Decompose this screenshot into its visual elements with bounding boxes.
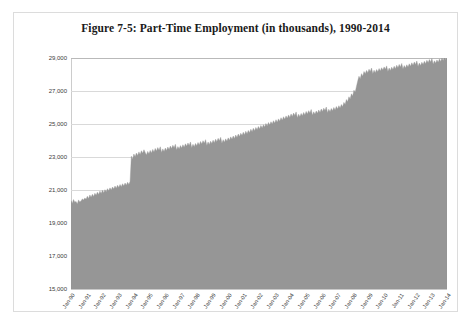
y-axis-tick-label: 15,000: [49, 286, 67, 292]
y-axis-tick-label: 19,000: [49, 220, 67, 226]
x-axis-tick-label: Jan-98: [187, 292, 202, 309]
x-axis-tick-label: Jan-96: [155, 292, 170, 309]
x-axis-tick-label: Jan-99: [202, 292, 217, 309]
x-axis-tick-label: Jan-13: [422, 292, 437, 309]
x-axis-tick-label: Jan-09: [359, 292, 374, 309]
x-axis-tick-label: Jan-11: [390, 292, 404, 309]
x-axis-tick-label: Jan-04: [281, 292, 296, 309]
x-axis-tick-label: Jan-14: [437, 292, 452, 309]
x-axis-tick-label: Jan-08: [343, 292, 358, 309]
x-axis-tick-label: Jan-00: [218, 292, 233, 309]
x-axis-tick-label: Jan-90: [61, 292, 76, 309]
series-area-path: [71, 58, 447, 289]
y-axis-tick-label: 29,000: [49, 55, 67, 61]
x-axis-tick-label: Jan-93: [108, 292, 123, 309]
y-axis-tick-label: 23,000: [49, 154, 67, 160]
y-axis-tick-label: 21,000: [49, 187, 67, 193]
x-axis-tick-label: Jan-03: [265, 292, 280, 309]
plot-area: 29,00027,00025,00023,00021,00019,00017,0…: [71, 58, 447, 289]
x-axis-tick-label: Jan-97: [171, 292, 186, 309]
page-title: Figure 7-5: Part-Time Employment (in tho…: [14, 22, 457, 34]
x-axis-tick-label: Jan-07: [328, 292, 343, 309]
x-axis-tick-label: Jan-05: [296, 292, 311, 309]
figure-frame: Figure 7-5: Part-Time Employment (in tho…: [13, 12, 458, 312]
x-axis-tick-label: Jan-12: [406, 292, 421, 309]
x-axis-tick-label: Jan-02: [249, 292, 264, 309]
x-axis-tick-label: Jan-91: [77, 292, 92, 309]
x-axis-tick-label: Jan-10: [375, 292, 390, 309]
gridline: [71, 289, 447, 290]
x-axis-tick-label: Jan-92: [93, 292, 108, 309]
y-axis-tick-label: 25,000: [49, 121, 67, 127]
x-axis-tick-label: Jan-06: [312, 292, 327, 309]
x-axis-tick-label: Jan-94: [124, 292, 139, 309]
x-axis-tick-label: Jan-95: [140, 292, 155, 309]
y-axis-tick-label: 27,000: [49, 88, 67, 94]
area-series-part-time-employment: [71, 58, 447, 289]
y-axis-tick-label: 17,000: [49, 253, 67, 259]
x-axis-tick-label: Jan-01: [234, 292, 249, 309]
